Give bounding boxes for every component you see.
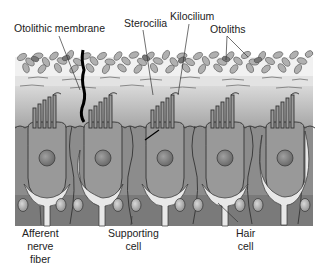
label-kilocilium: Kilocilium [170, 10, 214, 23]
label-supporting-cell: Supporting cell [108, 227, 159, 253]
label-afferent-nerve-fiber: Afferent nerve fiber [22, 227, 59, 266]
label-otoliths: Otoliths [210, 23, 246, 36]
label-otolithic-membrane: Otolithic membrane [14, 22, 105, 35]
label-hair-cell: Hair cell [236, 227, 255, 253]
label-sterocilia: Sterocilia [124, 17, 167, 30]
otolith-layer [15, 49, 314, 79]
